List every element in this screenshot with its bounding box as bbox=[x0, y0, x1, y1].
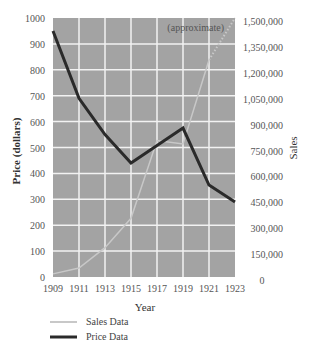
y-axis-title: Price (dollars) bbox=[10, 117, 23, 184]
x-tick-label: 1921 bbox=[199, 283, 219, 294]
y2-tick-label: 1,350,000 bbox=[243, 42, 283, 53]
price-legend-label: Price Data bbox=[86, 331, 128, 342]
y-tick-label: 200 bbox=[30, 220, 45, 231]
y2-tick-label: 450,000 bbox=[251, 197, 284, 208]
y-tick-label: 1000 bbox=[25, 13, 45, 24]
chart: 01002003004005006007008009001000 0150,00… bbox=[0, 0, 309, 354]
legend-item-sales: Sales Data bbox=[50, 316, 129, 327]
x-tick-label: 1919 bbox=[173, 283, 193, 294]
y-tick-label: 700 bbox=[30, 91, 45, 102]
x-axis-title: Year bbox=[135, 301, 156, 313]
y2-tick-label: 150,000 bbox=[251, 249, 284, 260]
approximate-annotation: (approximate) bbox=[167, 22, 224, 34]
y2-tick-label: 1,050,000 bbox=[243, 94, 283, 105]
y-tick-label: 500 bbox=[30, 143, 45, 154]
y2-tick-label: 600,000 bbox=[251, 171, 284, 182]
x-axis-ticks: 19091911191319151917191919211923 bbox=[43, 283, 245, 294]
legend-item-price: Price Data bbox=[50, 331, 128, 342]
y2-tick-label: 750,000 bbox=[251, 146, 284, 157]
y2-tick-label: 900,000 bbox=[251, 120, 284, 131]
y2-axis-title: Sales bbox=[287, 136, 299, 159]
legend: Sales Data Price Data bbox=[50, 316, 129, 342]
sales-legend-label: Sales Data bbox=[86, 316, 129, 327]
y2-tick-label: 1,500,000 bbox=[243, 16, 283, 27]
left-axis-ticks: 01002003004005006007008009001000 bbox=[25, 13, 45, 283]
y2-tick-label: 0 bbox=[260, 275, 265, 286]
x-tick-label: 1917 bbox=[147, 283, 167, 294]
y2-tick-label: 1,200,000 bbox=[243, 68, 283, 79]
x-tick-label: 1909 bbox=[43, 283, 63, 294]
y2-tick-label: 300,000 bbox=[251, 223, 284, 234]
x-tick-label: 1913 bbox=[95, 283, 115, 294]
y-tick-label: 900 bbox=[30, 39, 45, 50]
x-tick-label: 1915 bbox=[121, 283, 141, 294]
y-tick-label: 400 bbox=[30, 168, 45, 179]
y-tick-label: 100 bbox=[30, 246, 45, 257]
y-tick-label: 0 bbox=[40, 272, 45, 283]
x-tick-label: 1911 bbox=[69, 283, 89, 294]
y-tick-label: 300 bbox=[30, 194, 45, 205]
x-tick-label: 1923 bbox=[225, 283, 245, 294]
y-tick-label: 800 bbox=[30, 65, 45, 76]
right-axis-ticks: 0150,000300,000450,000600,000750,000900,… bbox=[243, 16, 283, 286]
y-tick-label: 600 bbox=[30, 117, 45, 128]
